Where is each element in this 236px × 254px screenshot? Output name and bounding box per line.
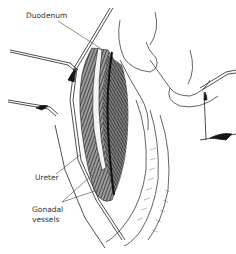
label-gonadal-line2: vessels (32, 215, 59, 224)
label-gonadal-line1: Gonadal (32, 205, 63, 214)
right-retractor (200, 70, 236, 140)
left-retractors (8, 50, 78, 116)
label-ureter: Ureter (35, 173, 59, 182)
label-duodenum: Duodenum (26, 11, 67, 20)
